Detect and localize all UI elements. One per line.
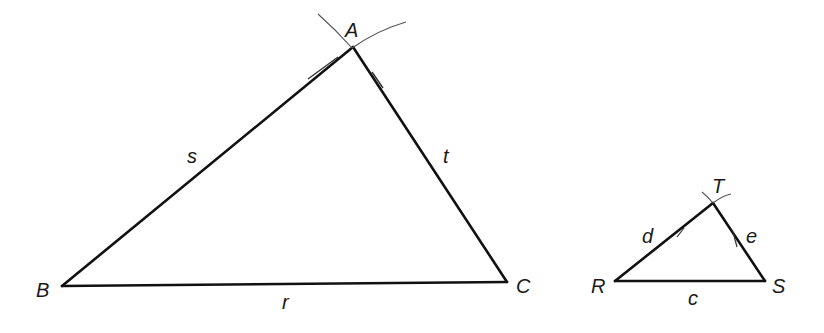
vertex-label-t: T	[712, 176, 724, 196]
side-label-e: e	[746, 226, 757, 246]
construction-arc-a-2	[352, 22, 406, 48]
side-label-r: r	[282, 292, 289, 312]
triangle-abc	[62, 14, 507, 286]
side-r-bc	[62, 282, 507, 286]
side-label-c: c	[688, 288, 698, 308]
triangle-rst	[615, 192, 765, 281]
vertex-label-s: S	[772, 276, 785, 296]
side-d-rt	[615, 203, 713, 281]
diagram-canvas	[0, 0, 824, 333]
vertex-label-r: R	[591, 276, 605, 296]
side-label-t: t	[443, 146, 449, 166]
vertex-label-b: B	[36, 280, 49, 300]
side-label-s: s	[187, 146, 197, 166]
side-s-ba	[62, 47, 353, 286]
side-e-ts	[713, 203, 765, 281]
side-label-d: d	[642, 226, 653, 246]
tick-mark-ab	[308, 57, 338, 79]
vertex-label-c: C	[516, 276, 530, 296]
side-t-ac	[353, 47, 507, 282]
vertex-label-a: A	[345, 20, 358, 40]
